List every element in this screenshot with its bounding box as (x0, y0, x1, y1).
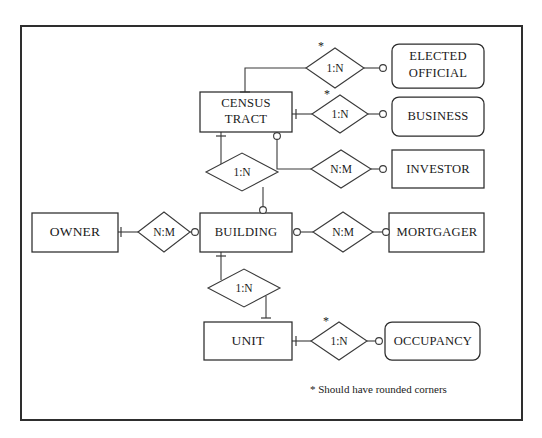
diagram-canvas: CENSUS TRACT ELECTED OFFICIAL BUSINESS I… (0, 0, 542, 438)
entity-owner-label: OWNER (50, 224, 101, 239)
relationship-owner-building-label: N:M (153, 226, 175, 238)
endpoint-circle-building-right (294, 229, 301, 236)
relationship-ct-elected-official-label: 1:N (326, 62, 344, 74)
er-diagram-root: CENSUS TRACT ELECTED OFFICIAL BUSINESS I… (0, 0, 542, 438)
endpoint-circle-census-tract-investor (274, 133, 281, 140)
endpoint-circle-building-top (260, 207, 267, 214)
entity-mortgager[interactable]: MORTGAGER (389, 213, 484, 252)
entity-elected-official-label-line1: ELECTED (409, 49, 466, 63)
entity-census-tract[interactable]: CENSUS TRACT (200, 92, 292, 132)
endpoint-circle-occupancy (376, 338, 383, 345)
entity-building-label: BUILDING (215, 225, 277, 239)
relationship-building-mortgager-label: N:M (332, 226, 354, 238)
entity-census-tract-label-line2: TRACT (225, 112, 267, 126)
endpoint-circle-elected-official (380, 65, 387, 72)
entity-unit[interactable]: UNIT (204, 322, 292, 360)
entity-building[interactable]: BUILDING (200, 213, 292, 252)
entity-occupancy-label: OCCUPANCY (394, 334, 472, 348)
entity-elected-official-label-line2: OFFICIAL (409, 66, 467, 80)
footnote-label: * Should have rounded corners (310, 383, 447, 395)
relationship-unit-occupancy-label: 1:N (330, 335, 348, 347)
endpoint-circle-mortgager (383, 229, 390, 236)
entity-census-tract-label-line1: CENSUS (221, 96, 271, 110)
relationship-unit-occupancy-asterisk: * (323, 314, 329, 328)
entity-elected-official[interactable]: ELECTED OFFICIAL (392, 44, 484, 88)
entity-business[interactable]: BUSINESS (392, 97, 484, 136)
entity-occupancy[interactable]: OCCUPANCY (385, 322, 480, 360)
relationship-ct-elected-official-asterisk: * (318, 39, 324, 53)
entity-investor[interactable]: INVESTOR (392, 150, 484, 188)
relationship-ct-business-label: 1:N (331, 108, 349, 120)
entity-mortgager-label: MORTGAGER (397, 225, 478, 239)
relationship-ct-building-label: 1:N (233, 166, 251, 178)
endpoint-circle-business (380, 111, 387, 118)
relationship-building-unit-label: 1:N (235, 282, 253, 294)
entity-owner[interactable]: OWNER (32, 213, 118, 252)
entity-investor-label: INVESTOR (406, 162, 470, 176)
endpoint-circle-investor (380, 166, 387, 173)
endpoint-circle-building-left (192, 229, 199, 236)
entity-business-label: BUSINESS (407, 109, 468, 123)
relationship-ct-investor-label: N:M (330, 163, 352, 175)
entity-unit-label: UNIT (231, 333, 265, 348)
relationship-ct-business-asterisk: * (324, 87, 330, 101)
